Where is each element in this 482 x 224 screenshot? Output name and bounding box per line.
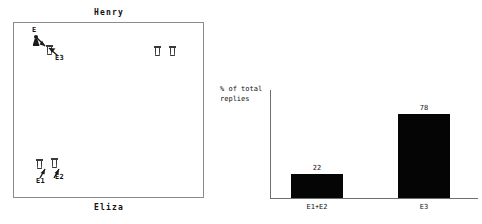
- chart-category-label-e1-e2: E1+E2: [291, 203, 343, 211]
- chart-x-axis: [270, 198, 478, 199]
- scene-panel: Henry E E3: [0, 0, 222, 224]
- chart-y-axis: [270, 90, 271, 198]
- scene-top-label: Henry: [13, 8, 205, 17]
- bar-value-e1-e2: 22: [291, 164, 343, 172]
- chart-y-axis-label: % of total replies: [220, 84, 280, 104]
- cup-icon: [169, 46, 176, 56]
- bar-value-e3: 78: [398, 104, 450, 112]
- scene-marker-label-E2: E2: [55, 173, 64, 181]
- bar-chart: % of total replies 22 E1+E2 78 E3: [222, 0, 482, 224]
- bar-e3: [398, 114, 450, 198]
- cup-icon: [154, 46, 161, 56]
- scene-room-box: E E3: [13, 22, 204, 198]
- bar-e1-e2: [291, 174, 343, 198]
- scene-arrows-top: [26, 31, 72, 65]
- scene-bottom-label: Eliza: [13, 203, 205, 212]
- chart-category-label-e3: E3: [398, 203, 450, 211]
- scene-marker-label-E1: E1: [36, 177, 45, 185]
